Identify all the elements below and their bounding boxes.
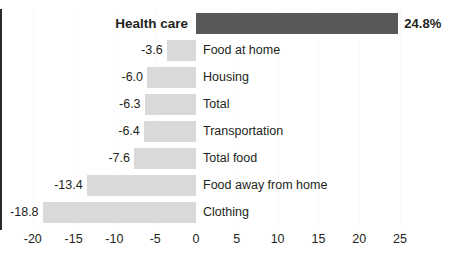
- bar-row: -6.0Housing: [0, 64, 450, 91]
- category-label: Health care: [0, 10, 188, 37]
- x-tick-label: -15: [54, 232, 94, 246]
- bar-value-label: -13.4: [0, 172, 83, 199]
- bar-value-label: -3.6: [0, 37, 163, 64]
- bar-row: 24.8%Health care: [0, 10, 450, 37]
- x-tick-label: -20: [13, 232, 53, 246]
- plot-area: 24.8%Health care-3.6Food at home-6.0Hous…: [0, 0, 450, 230]
- x-tick-label: 5: [217, 232, 257, 246]
- x-tick-label: 0: [176, 232, 216, 246]
- bar-health-care: [196, 13, 398, 34]
- category-label: Total: [196, 91, 450, 118]
- bar-row: -7.6Total food: [0, 145, 450, 172]
- bar-total-food: [134, 148, 196, 169]
- bar-food-away-from-home: [87, 175, 196, 196]
- bar-row: -18.8Clothing: [0, 199, 450, 226]
- bar-housing: [147, 67, 196, 88]
- category-label: Clothing: [196, 199, 450, 226]
- bar-transportation: [144, 121, 196, 142]
- bar-value-label: -7.6: [0, 145, 130, 172]
- x-tick-label: -10: [94, 232, 134, 246]
- x-tick-label: -5: [135, 232, 175, 246]
- category-label: Food away from home: [196, 172, 450, 199]
- bar-chart: 24.8%Health care-3.6Food at home-6.0Hous…: [0, 0, 450, 256]
- bar-food-at-home: [167, 40, 196, 61]
- bar-row: -6.3Total: [0, 91, 450, 118]
- bar-row: -6.4Transportation: [0, 118, 450, 145]
- bar-total: [145, 94, 196, 115]
- bar-clothing: [43, 202, 196, 223]
- bar-value-label: -18.8: [0, 199, 39, 226]
- x-tick-label: 25: [380, 232, 420, 246]
- bar-value-label: -6.3: [0, 91, 141, 118]
- category-label: Food at home: [196, 37, 450, 64]
- x-tick-label: 10: [258, 232, 298, 246]
- bar-value-label: 24.8%: [404, 10, 450, 37]
- category-label: Housing: [196, 64, 450, 91]
- bar-row: -13.4Food away from home: [0, 172, 450, 199]
- x-tick-label: 15: [298, 232, 338, 246]
- x-tick-label: 20: [339, 232, 379, 246]
- category-label: Transportation: [196, 118, 450, 145]
- bar-value-label: -6.4: [0, 118, 140, 145]
- bar-value-label: -6.0: [0, 64, 143, 91]
- zero-axis-line: [0, 9, 2, 230]
- bar-row: -3.6Food at home: [0, 37, 450, 64]
- category-label: Total food: [196, 145, 450, 172]
- x-axis: -20-15-10-50510152025: [0, 230, 450, 256]
